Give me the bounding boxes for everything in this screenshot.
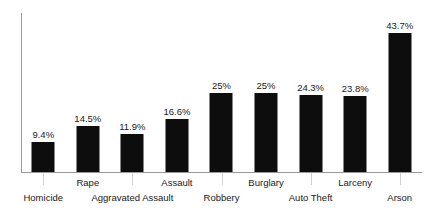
bar[interactable] (299, 95, 322, 172)
bar-chart: 9.4%14.5%11.9%16.6%25%25%24.3%23.8%43.7%… (0, 0, 441, 219)
bar-slot: 43.7% (377, 13, 422, 172)
x-axis-category-label: Assault (161, 177, 192, 188)
bar-value-label: 43.7% (386, 20, 413, 31)
x-axis-tick (311, 173, 312, 185)
x-axis-category-label: Rape (76, 177, 99, 188)
x-axis-category-label: Auto Theft (289, 192, 333, 203)
bar-slot: 16.6% (155, 13, 200, 172)
bar-value-label: 24.3% (297, 82, 324, 93)
bar-slot: 9.4% (21, 13, 66, 172)
x-axis-category-label: Arson (387, 192, 412, 203)
bar-value-label: 23.8% (342, 83, 369, 94)
x-axis-category-label: Aggravated Assault (91, 192, 173, 203)
bar[interactable] (255, 93, 278, 173)
bar[interactable] (121, 134, 144, 172)
x-axis-tick (43, 173, 44, 185)
bar-slot: 25% (199, 13, 244, 172)
bar-slot: 25% (244, 13, 289, 172)
x-axis-category-label: Robbery (204, 192, 240, 203)
x-axis-category-label: Larceny (338, 177, 372, 188)
bar[interactable] (76, 126, 99, 172)
x-axis-category-label: Burglary (248, 177, 283, 188)
x-axis-tick (222, 173, 223, 185)
bar-value-label: 16.6% (163, 106, 190, 117)
x-axis-category-label: Homicide (23, 192, 63, 203)
bar[interactable] (344, 96, 367, 172)
bar-value-label: 11.9% (119, 121, 145, 132)
bar[interactable] (388, 33, 411, 172)
plot-area: 9.4%14.5%11.9%16.6%25%25%24.3%23.8%43.7% (21, 13, 422, 172)
bar-slot: 11.9% (110, 13, 155, 172)
bar-value-label: 9.4% (32, 129, 54, 140)
bar-slot: 24.3% (288, 13, 333, 172)
bar[interactable] (32, 142, 55, 172)
bar[interactable] (210, 93, 233, 173)
bar-value-label: 25% (257, 80, 276, 91)
bar-value-label: 14.5% (74, 113, 101, 124)
bar-slot: 14.5% (66, 13, 111, 172)
bar-slot: 23.8% (333, 13, 378, 172)
bar[interactable] (165, 119, 188, 172)
bar-value-label: 25% (212, 80, 231, 91)
x-axis-tick (400, 173, 401, 185)
x-axis-tick (132, 173, 133, 185)
